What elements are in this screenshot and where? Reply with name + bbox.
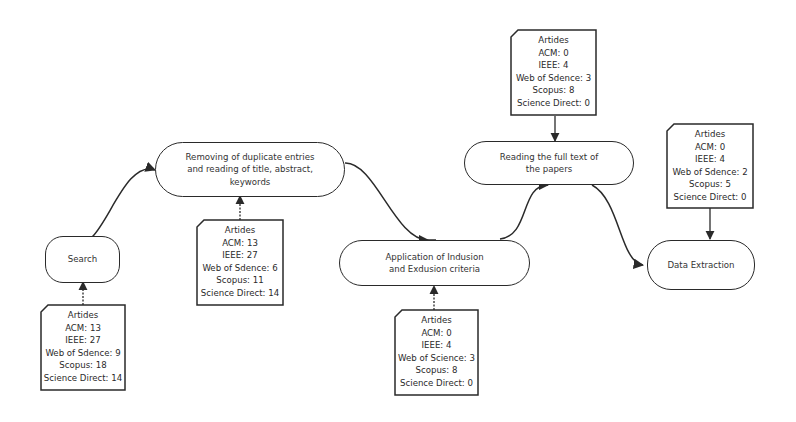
process-extraction: Data Extraction bbox=[647, 240, 755, 290]
note-extraction-line: ACM: 0 bbox=[695, 141, 725, 154]
note-extraction-title: Artides bbox=[695, 128, 725, 141]
edge-fulltext-to-extraction bbox=[592, 185, 643, 265]
note-extraction-line: Scopus: 5 bbox=[689, 178, 731, 191]
note-criteria-line: ACM: 0 bbox=[421, 327, 451, 340]
note-dedup-line: Web of Sdence: 6 bbox=[202, 262, 277, 275]
process-dedup: Removing of duplicate entries and readin… bbox=[155, 142, 345, 197]
process-dedup-label: Removing of duplicate entries and readin… bbox=[178, 151, 322, 189]
note-fulltext-line: Web of Sdence: 3 bbox=[516, 72, 591, 85]
note-criteria-title: Artides bbox=[421, 314, 451, 327]
note-extraction-line: IEEE: 4 bbox=[695, 153, 725, 166]
note-criteria-line: Scopus: 8 bbox=[416, 364, 458, 377]
process-fulltext: Reading the full text of the papers bbox=[464, 141, 634, 185]
process-fulltext-label: Reading the full text of the papers bbox=[495, 151, 603, 176]
note-search-line: ACM: 13 bbox=[65, 322, 101, 335]
process-criteria: Application of Indusion and Exdusion cri… bbox=[339, 240, 530, 286]
process-extraction-label: Data Extraction bbox=[667, 259, 734, 272]
note-dedup-line: IEEE: 27 bbox=[222, 249, 257, 262]
edge-search-to-dedup bbox=[92, 169, 155, 237]
note-extraction-line: Web of Sdence: 2 bbox=[672, 166, 747, 179]
note-search-line: Science Direct: 14 bbox=[44, 372, 122, 385]
note-fulltext: Artides ACM: 0 IEEE: 4 Web of Sdence: 3 … bbox=[510, 29, 597, 116]
note-dedup-line: Scopus: 11 bbox=[216, 274, 263, 287]
note-fulltext-line: Scopus: 8 bbox=[533, 84, 575, 97]
note-dedup-title: Artides bbox=[225, 224, 255, 237]
note-search-title: Artides bbox=[68, 309, 98, 322]
note-criteria-line: Web of Science: 3 bbox=[398, 352, 475, 365]
process-search: Search bbox=[45, 236, 120, 283]
note-extraction: Artides ACM: 0 IEEE: 4 Web of Sdence: 2 … bbox=[666, 123, 754, 209]
note-criteria-line: IEEE: 4 bbox=[422, 339, 452, 352]
process-criteria-label: Application of Indusion and Exdusion cri… bbox=[378, 251, 491, 276]
note-search-line: Web of Sdence: 9 bbox=[45, 347, 120, 360]
note-fulltext-line: ACM: 0 bbox=[538, 47, 568, 60]
note-search-line: IEEE: 27 bbox=[65, 334, 100, 347]
note-fulltext-title: Artides bbox=[538, 34, 568, 47]
edge-criteria-to-fulltext bbox=[500, 185, 548, 239]
edge-dedup-to-criteria bbox=[345, 163, 428, 240]
flowchart-canvas: Search Removing of duplicate entries and… bbox=[0, 0, 796, 422]
note-dedup: Artides ACM: 13 IEEE: 27 Web of Sdence: … bbox=[196, 219, 284, 306]
note-criteria-line: Science Direct: 0 bbox=[400, 377, 473, 390]
note-search-line: Scopus: 18 bbox=[59, 359, 106, 372]
note-search: Artides ACM: 13 IEEE: 27 Web of Sdence: … bbox=[40, 304, 126, 391]
note-dedup-line: ACM: 13 bbox=[222, 237, 258, 250]
note-criteria: Artides ACM: 0 IEEE: 4 Web of Science: 3… bbox=[394, 309, 479, 396]
note-extraction-line: Science Direct: 0 bbox=[674, 191, 747, 204]
note-fulltext-line: Science Direct: 0 bbox=[517, 97, 590, 110]
process-search-label: Search bbox=[68, 253, 98, 266]
note-fulltext-line: IEEE: 4 bbox=[539, 59, 569, 72]
note-dedup-line: Science Direct: 14 bbox=[201, 287, 279, 300]
